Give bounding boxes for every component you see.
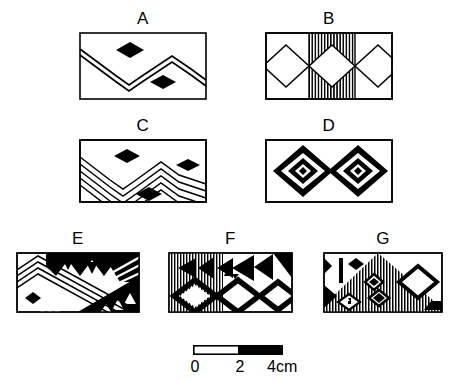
panel-f: F [168, 230, 293, 313]
figure-plate: A B [0, 0, 458, 382]
panel-d-art [265, 139, 393, 203]
panel-c: C [79, 117, 207, 203]
panel-d: D [265, 117, 393, 203]
panel-d-label: D [265, 117, 393, 134]
panel-g-label: G [323, 230, 443, 247]
panel-f-label: F [168, 230, 293, 247]
scale-tick-2: 2 [229, 358, 251, 376]
panel-b: B [265, 10, 393, 100]
scale-bar-art [193, 345, 283, 355]
scale-tick-4cm: 4cm [267, 358, 315, 376]
panel-g-art [323, 252, 443, 313]
scale-bar [193, 345, 283, 355]
panel-e-label: E [16, 230, 140, 247]
panel-b-art [265, 32, 393, 100]
panel-a-label: A [79, 10, 207, 27]
panel-g: G [323, 230, 443, 313]
panel-b-label: B [265, 10, 393, 27]
panel-f-art [168, 252, 293, 313]
panel-c-art [79, 139, 207, 203]
panel-a-art [79, 32, 207, 100]
panel-e-art [16, 252, 140, 313]
scale-tick-0: 0 [184, 358, 206, 376]
scale-tick-labels: 0 2 4cm [175, 358, 305, 380]
panel-a: A [79, 10, 207, 100]
panel-e: E [16, 230, 140, 313]
panel-c-label: C [79, 117, 207, 134]
